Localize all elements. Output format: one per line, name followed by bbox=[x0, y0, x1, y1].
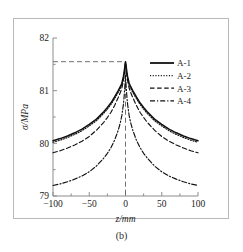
x-tick-label: −100 bbox=[43, 199, 63, 209]
figure-panel: 79808182−100−50050100z/mmσ/MPaA-1A-2A-3A… bbox=[0, 0, 243, 252]
x-tick-label: 50 bbox=[157, 199, 167, 209]
y-tick-label: 82 bbox=[40, 33, 50, 43]
figure-caption: (b) bbox=[0, 230, 243, 241]
x-tick-label: −50 bbox=[82, 199, 97, 209]
legend-label-a-2: A-2 bbox=[177, 71, 191, 81]
legend-label-a-3: A-3 bbox=[177, 84, 191, 94]
legend-label-a-1: A-1 bbox=[177, 58, 191, 68]
y-axis-label: σ/MPa bbox=[20, 104, 30, 130]
legend-label-a-4: A-4 bbox=[177, 96, 191, 106]
y-tick-label: 80 bbox=[40, 139, 50, 149]
chart-canvas: 79808182−100−50050100z/mmσ/MPaA-1A-2A-3A… bbox=[0, 0, 243, 252]
y-tick-label: 81 bbox=[40, 86, 50, 96]
x-axis-label: z/mm bbox=[114, 214, 135, 224]
x-tick-label: 100 bbox=[191, 199, 206, 209]
x-tick-label: 0 bbox=[123, 199, 128, 209]
